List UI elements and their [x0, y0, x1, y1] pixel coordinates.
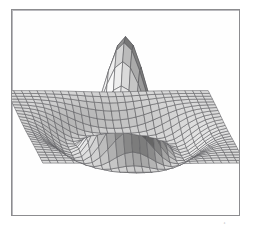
- figure-caption: The 3D surface of the sinc-like sombrero…: [12, 222, 241, 225]
- figure-root: The 3D surface of the sinc-like sombrero…: [0, 0, 253, 233]
- mesh-cell: [203, 96, 212, 99]
- mesh-cell: [205, 99, 214, 102]
- mesh-cell: [233, 155, 239, 158]
- surface-mesh-plot: [12, 10, 239, 215]
- mesh-cell: [202, 93, 211, 96]
- mesh-cell: [200, 91, 209, 94]
- mesh-cell: [206, 102, 215, 105]
- mesh-cell: [232, 152, 239, 155]
- mesh-cell: [207, 105, 216, 108]
- figure-caption-strip: The 3D surface of the sinc-like sombrero…: [12, 222, 241, 233]
- plot-frame: [11, 9, 240, 216]
